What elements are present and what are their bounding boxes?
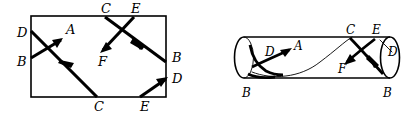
label-D-right-cyl: D	[387, 45, 398, 59]
cylinder-left-cap-front	[235, 37, 245, 78]
left-diagram: D B A C E F B D C E	[16, 1, 183, 114]
label-B-right: B	[171, 50, 182, 65]
label-D-left: D	[16, 25, 28, 40]
label-B-left: B	[16, 54, 27, 69]
label-E-top: E	[130, 1, 141, 16]
label-D-right: D	[171, 71, 183, 86]
figure-container: D B A C E F B D C E	[0, 0, 412, 114]
figure-canvas: D B A C E F B D C E	[0, 0, 412, 114]
label-D-left-cyl: D	[264, 45, 275, 59]
label-F: F	[97, 54, 108, 69]
label-C-bottom: C	[94, 99, 104, 114]
label-C-top: C	[101, 1, 111, 16]
right-diagram: D A C E D F B B	[235, 23, 400, 100]
label-F-cyl: F	[337, 62, 347, 76]
label-A: A	[65, 22, 75, 37]
label-C-cyl: C	[346, 23, 355, 37]
label-B-left-cyl: B	[241, 86, 251, 100]
label-B-right-cyl: B	[382, 86, 392, 100]
label-E-cyl: E	[371, 23, 381, 37]
label-E-bottom: E	[139, 99, 150, 114]
arrowhead-at-A-cyl	[280, 48, 292, 57]
label-A-cyl: A	[293, 39, 303, 53]
